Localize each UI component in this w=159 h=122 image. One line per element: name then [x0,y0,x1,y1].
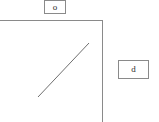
diagonal-line [38,43,89,97]
label-box-d-text: d [131,65,136,74]
label-box-o[interactable]: o [44,0,66,14]
label-box-d[interactable]: d [118,60,149,79]
diagram-canvas: o d [0,0,159,122]
label-box-o-text: o [53,2,58,11]
